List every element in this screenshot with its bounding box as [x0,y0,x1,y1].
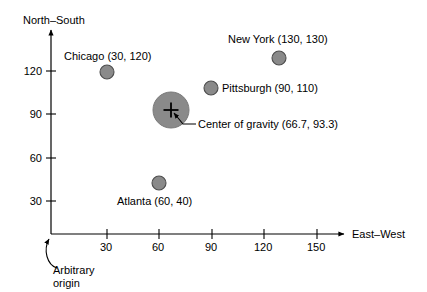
y-axis-title: North–South [23,14,85,27]
scatter-plot-figure: North–South East–West 120 90 60 30 30 60… [0,0,427,292]
marker-chicago [100,65,114,79]
data-label-atlanta: Atlanta (60, 40) [117,195,192,208]
annotation-arbitrary-origin-line2: origin [53,277,80,290]
y-tick-label-60: 60 [18,152,42,165]
x-tick-label-30: 30 [100,241,112,254]
annotation-arbitrary-origin-line1: Arbitrary [53,264,95,277]
y-tick-label-120: 120 [18,65,42,78]
data-label-pittsburgh: Pittsburgh (90, 110) [222,82,318,95]
marker-new-york [272,51,286,65]
marker-atlanta [152,176,166,190]
x-tick-label-90: 90 [205,241,217,254]
data-label-chicago: Chicago (30, 120) [64,50,151,63]
data-label-center-of-gravity: Center of gravity (66.7, 93.3) [198,118,338,131]
marker-pittsburgh [204,81,218,95]
y-tick-label-30: 30 [18,195,42,208]
y-tick-label-90: 90 [18,108,42,121]
x-axis-title: East–West [352,228,405,241]
data-label-new-york: New York (130, 130) [228,33,328,46]
x-tick-label-60: 60 [152,241,164,254]
x-tick-label-120: 120 [254,241,272,254]
x-tick-label-150: 150 [307,241,325,254]
